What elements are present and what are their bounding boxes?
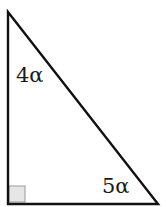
angle-label-bottom-right: 5α xyxy=(102,174,130,198)
triangle-shape xyxy=(8,12,158,204)
angle-label-top: 4α xyxy=(16,63,44,87)
right-angle-marker xyxy=(9,186,25,202)
triangle-diagram: 4α 5α xyxy=(0,0,166,207)
